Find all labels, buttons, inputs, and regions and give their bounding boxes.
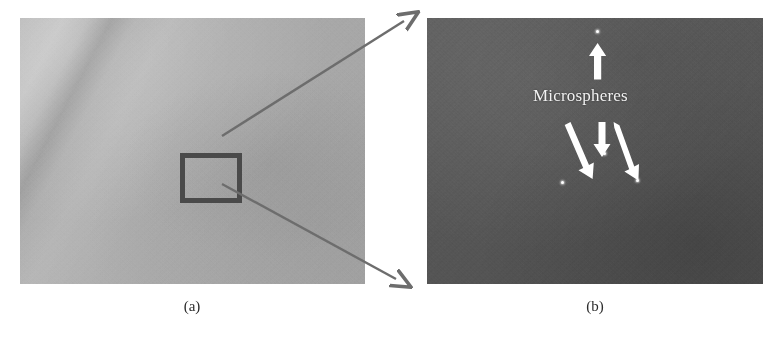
microsphere-dot: [596, 30, 599, 33]
microsphere-dot: [636, 179, 639, 182]
panel-b-caption: (b): [555, 298, 635, 315]
panel-a-grain-texture: [20, 18, 365, 284]
microspheres-label: Microspheres: [533, 85, 628, 107]
panel-b-grain-texture: [427, 18, 763, 284]
microsphere-dot: [561, 181, 564, 184]
figure-root: Microspheres (a) (b): [0, 0, 781, 341]
microsphere-dot: [603, 152, 606, 155]
region-of-interest-box: [180, 153, 242, 203]
panel-b-micrograph: [427, 18, 763, 284]
panel-a-caption: (a): [152, 298, 232, 315]
panel-a-micrograph: [20, 18, 365, 284]
